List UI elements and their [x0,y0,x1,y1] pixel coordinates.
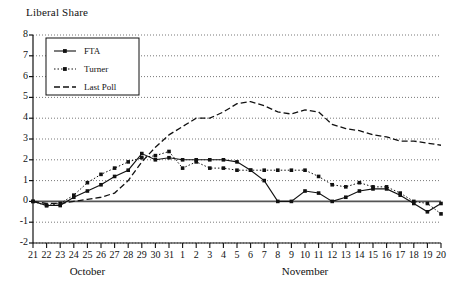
legend-label-turner: Turner [84,64,108,74]
series-marker-turner [194,160,198,164]
plot-area: FTATurnerLast Poll [0,0,458,288]
y-axis-tick-label: 5 [2,90,28,101]
series-marker-fta [113,175,117,179]
series-marker-fta [99,183,103,187]
x-axis-month-label: October [47,265,127,277]
y-axis-tick-label: 2 [2,153,28,164]
series-marker-turner [154,154,158,158]
y-axis-tick-label: 4 [2,111,28,122]
series-marker-turner [140,156,144,160]
series-marker-turner [126,160,130,164]
series-marker-fta [86,189,90,193]
series-marker-turner [303,168,307,172]
series-marker-turner [45,204,49,208]
y-axis-tick-label: 1 [2,174,28,185]
chart-figure: Liberal Share FTATurnerLast Poll 8765432… [0,0,458,288]
series-marker-fta [222,158,226,162]
series-marker-fta [154,158,158,162]
y-axis-tick-label: -2 [2,236,28,247]
series-marker-fta [330,200,334,204]
series-marker-turner [222,166,226,170]
series-marker-fta [317,191,321,195]
series-marker-fta [140,152,144,156]
series-marker-fta [290,200,294,204]
series-marker-fta [358,189,362,193]
series-marker-fta [208,158,212,162]
y-axis-tick-label: -1 [2,215,28,226]
series-marker-turner [181,166,185,170]
series-marker-fta [167,156,171,160]
series-marker-fta [262,179,266,183]
series-marker-turner [358,181,362,185]
series-marker-fta [426,210,430,214]
series-marker-turner [235,168,239,172]
legend-label-last-poll: Last Poll [84,82,117,92]
series-marker-turner [276,168,280,172]
series-marker-turner [426,202,430,206]
series-marker-turner [371,185,375,189]
series-marker-turner [290,168,294,172]
series-marker-turner [317,175,321,179]
series-marker-fta [303,189,307,193]
y-axis-tick-label: 6 [2,70,28,81]
y-axis-tick-label: 3 [2,132,28,143]
series-marker-turner [72,193,76,197]
series-marker-turner [398,191,402,195]
series-marker-fta [235,160,239,164]
legend-marker-fta [63,49,67,53]
series-marker-turner [330,183,334,187]
y-axis-tick-label: 8 [2,28,28,39]
legend-marker-turner [63,67,67,71]
series-marker-turner [113,166,117,170]
legend-label-fta: FTA [84,46,101,56]
series-marker-turner [249,168,253,172]
series-marker-fta [126,168,130,172]
y-axis-tick-label: 0 [2,194,28,205]
series-marker-fta [181,158,185,162]
x-axis-month-label: November [265,265,345,277]
series-marker-fta [439,202,443,206]
series-marker-turner [412,200,416,204]
series-marker-turner [208,166,212,170]
y-axis-tick-label: 7 [2,49,28,60]
series-marker-turner [99,173,103,177]
series-marker-turner [86,181,90,185]
series-marker-fta [276,200,280,204]
series-marker-turner [439,212,443,216]
series-marker-turner [344,185,348,189]
x-axis-tick-label: 20 [431,249,451,260]
series-marker-turner [262,168,266,172]
series-marker-turner [167,150,171,154]
series-marker-turner [385,185,389,189]
series-marker-fta [344,195,348,199]
